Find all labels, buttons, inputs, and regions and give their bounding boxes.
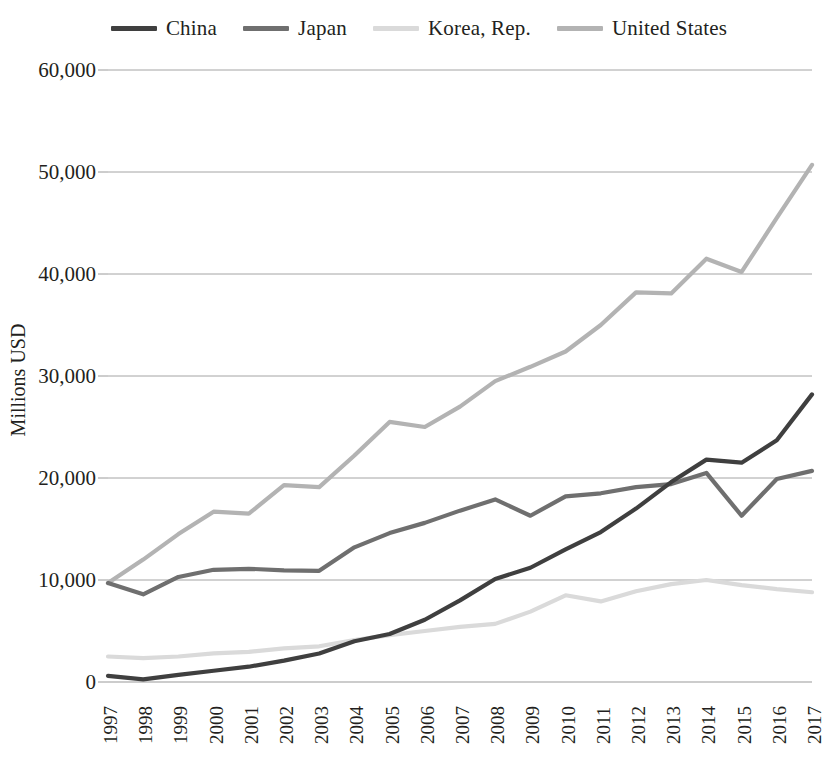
series-line-china [108, 394, 812, 679]
series-line-korea-rep [108, 580, 812, 658]
x-axis-tick-label: 2012 [629, 706, 648, 744]
x-axis-tick-label: 2005 [383, 706, 402, 744]
x-axis-tick-label: 2006 [418, 706, 437, 744]
x-axis-tick-label: 1998 [136, 706, 155, 744]
x-axis-tick-label: 2001 [242, 706, 261, 744]
x-axis-tick-label: 2004 [347, 706, 366, 744]
y-axis-tick-label: 10,000 [38, 570, 96, 591]
x-axis-tick-label: 2007 [453, 706, 472, 744]
x-axis-tick-label: 2009 [523, 706, 542, 744]
x-axis-tick-label: 2000 [207, 706, 226, 744]
y-axis-tick-label: 60,000 [38, 60, 96, 81]
y-axis-title: Millions USD [8, 324, 28, 437]
x-axis-tick-label: 2013 [664, 706, 683, 744]
series-line-japan [108, 471, 812, 594]
x-axis-tick-label: 2003 [312, 706, 331, 744]
line-chart: ChinaJapanKorea, Rep.United States 010,0… [0, 0, 838, 758]
x-axis-tick-label: 1997 [101, 706, 120, 744]
plot-area [0, 0, 838, 758]
x-axis-tick-label: 2010 [559, 706, 578, 744]
x-axis-tick-label: 2011 [594, 707, 613, 744]
gridlines [108, 70, 812, 682]
y-axis-tick-label: 40,000 [38, 264, 96, 285]
y-axis-tick-label: 50,000 [38, 162, 96, 183]
series-lines [108, 165, 812, 680]
x-axis-tick-label: 1999 [171, 706, 190, 744]
x-axis-tick-label: 2014 [699, 706, 718, 744]
y-axis-tick-label: 0 [86, 672, 97, 693]
x-axis-tick-label: 2017 [805, 706, 824, 744]
y-axis-tick-label: 20,000 [38, 468, 96, 489]
x-axis-tick-label: 2002 [277, 706, 296, 744]
y-axis-ticks [98, 70, 108, 682]
y-axis-tick-label: 30,000 [38, 366, 96, 387]
x-axis-tick-label: 2016 [770, 706, 789, 744]
plot-svg [0, 0, 838, 758]
series-line-united-states [108, 165, 812, 583]
x-axis-tick-label: 2008 [488, 706, 507, 744]
x-axis-tick-label: 2015 [735, 706, 754, 744]
